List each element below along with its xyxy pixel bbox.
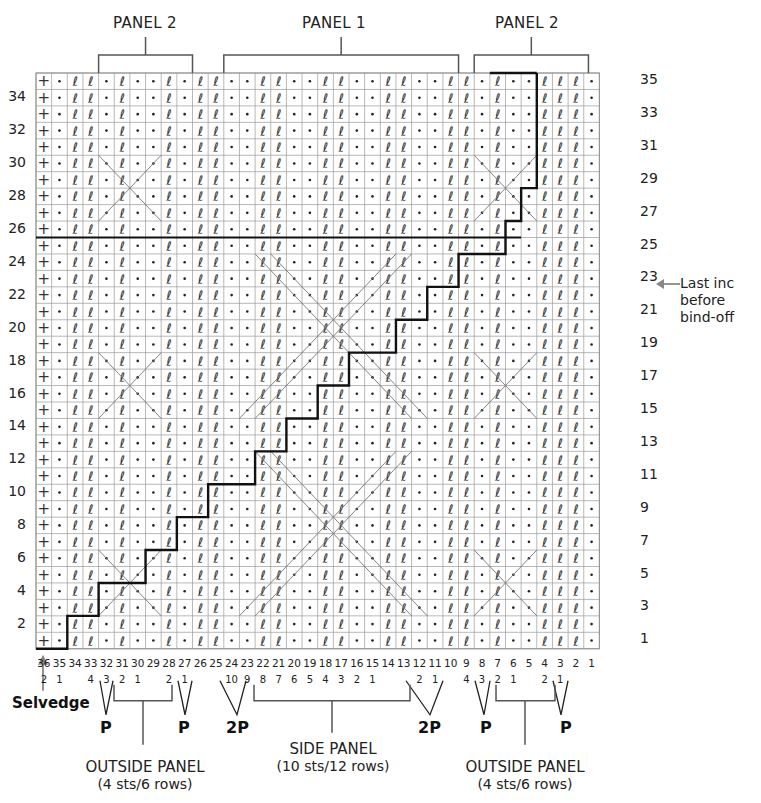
svg-text:ℓ: ℓ xyxy=(259,189,265,204)
svg-text:ℓ: ℓ xyxy=(557,107,563,122)
svg-text:ℓ: ℓ xyxy=(400,634,406,649)
row-number-right: 27 xyxy=(640,203,658,219)
svg-text:ℓ: ℓ xyxy=(463,337,469,352)
svg-text:ℓ: ℓ xyxy=(118,222,124,237)
svg-text:ℓ: ℓ xyxy=(322,453,328,468)
svg-text:ℓ: ℓ xyxy=(71,535,77,550)
svg-text:ℓ: ℓ xyxy=(87,255,93,270)
sub-column-number: 2 xyxy=(349,674,365,685)
svg-text:ℓ: ℓ xyxy=(259,305,265,320)
svg-text:ℓ: ℓ xyxy=(384,551,390,566)
svg-text:+: + xyxy=(38,385,51,403)
svg-text:ℓ: ℓ xyxy=(572,436,578,451)
svg-text:ℓ: ℓ xyxy=(541,518,547,533)
svg-text:ℓ: ℓ xyxy=(494,518,500,533)
svg-text:ℓ: ℓ xyxy=(275,222,281,237)
svg-text:ℓ: ℓ xyxy=(165,518,171,533)
svg-text:ℓ: ℓ xyxy=(275,189,281,204)
svg-text:ℓ: ℓ xyxy=(494,321,500,336)
svg-text:ℓ: ℓ xyxy=(463,124,469,139)
column-number: 22 xyxy=(255,657,271,669)
svg-text:ℓ: ℓ xyxy=(384,617,390,632)
svg-text:ℓ: ℓ xyxy=(463,634,469,649)
svg-text:ℓ: ℓ xyxy=(322,255,328,270)
svg-text:ℓ: ℓ xyxy=(572,321,578,336)
svg-text:ℓ: ℓ xyxy=(87,206,93,221)
svg-text:ℓ: ℓ xyxy=(337,370,343,385)
svg-text:ℓ: ℓ xyxy=(71,156,77,171)
sub-column-number: 5 xyxy=(302,674,318,685)
svg-text:ℓ: ℓ xyxy=(541,535,547,550)
svg-text:+: + xyxy=(38,401,51,419)
svg-text:ℓ: ℓ xyxy=(71,206,77,221)
svg-text:+: + xyxy=(38,237,51,255)
svg-text:ℓ: ℓ xyxy=(71,469,77,484)
row-number-left: 2 xyxy=(2,615,26,631)
svg-text:ℓ: ℓ xyxy=(400,387,406,402)
svg-text:ℓ: ℓ xyxy=(212,107,218,122)
svg-text:ℓ: ℓ xyxy=(212,601,218,616)
svg-text:ℓ: ℓ xyxy=(494,453,500,468)
svg-text:ℓ: ℓ xyxy=(494,107,500,122)
sub-column-number: 1 xyxy=(427,674,443,685)
svg-text:ℓ: ℓ xyxy=(322,140,328,155)
svg-text:ℓ: ℓ xyxy=(118,91,124,106)
svg-text:ℓ: ℓ xyxy=(322,617,328,632)
svg-text:ℓ: ℓ xyxy=(259,453,265,468)
svg-text:ℓ: ℓ xyxy=(197,189,203,204)
row-number-left: 32 xyxy=(2,121,26,137)
svg-text:ℓ: ℓ xyxy=(384,74,390,89)
svg-text:ℓ: ℓ xyxy=(87,222,93,237)
svg-text:ℓ: ℓ xyxy=(337,453,343,468)
sub-column-number: 2 xyxy=(537,674,553,685)
svg-text:ℓ: ℓ xyxy=(541,337,547,352)
svg-text:ℓ: ℓ xyxy=(400,370,406,385)
row-number-right: 29 xyxy=(640,170,658,186)
column-number: 29 xyxy=(145,657,161,669)
svg-text:+: + xyxy=(38,451,51,469)
svg-text:ℓ: ℓ xyxy=(541,436,547,451)
svg-text:ℓ: ℓ xyxy=(463,255,469,270)
svg-text:+: + xyxy=(38,483,51,501)
svg-text:ℓ: ℓ xyxy=(572,518,578,533)
svg-text:ℓ: ℓ xyxy=(447,91,453,106)
svg-text:ℓ: ℓ xyxy=(197,387,203,402)
svg-text:ℓ: ℓ xyxy=(118,354,124,369)
svg-text:ℓ: ℓ xyxy=(447,107,453,122)
svg-text:ℓ: ℓ xyxy=(557,74,563,89)
svg-text:ℓ: ℓ xyxy=(197,502,203,517)
svg-text:ℓ: ℓ xyxy=(400,206,406,221)
svg-text:ℓ: ℓ xyxy=(87,420,93,435)
svg-text:ℓ: ℓ xyxy=(197,617,203,632)
svg-text:ℓ: ℓ xyxy=(197,321,203,336)
svg-text:ℓ: ℓ xyxy=(572,420,578,435)
svg-text:ℓ: ℓ xyxy=(212,222,218,237)
svg-text:ℓ: ℓ xyxy=(337,140,343,155)
svg-text:ℓ: ℓ xyxy=(87,469,93,484)
svg-text:+: + xyxy=(38,582,51,600)
sub-column-number: 2 xyxy=(114,674,130,685)
svg-text:ℓ: ℓ xyxy=(541,222,547,237)
svg-text:ℓ: ℓ xyxy=(572,403,578,418)
svg-text:ℓ: ℓ xyxy=(197,551,203,566)
svg-text:ℓ: ℓ xyxy=(557,601,563,616)
sub-column-number: 7 xyxy=(271,674,287,685)
svg-text:ℓ: ℓ xyxy=(557,321,563,336)
svg-text:ℓ: ℓ xyxy=(384,601,390,616)
svg-text:ℓ: ℓ xyxy=(275,469,281,484)
svg-text:ℓ: ℓ xyxy=(572,337,578,352)
outside-panel-left-label: OUTSIDE PANEL (4 sts/6 rows) xyxy=(60,758,230,792)
svg-text:ℓ: ℓ xyxy=(400,518,406,533)
sub-column-number: 4 xyxy=(318,674,334,685)
svg-text:ℓ: ℓ xyxy=(165,288,171,303)
svg-text:ℓ: ℓ xyxy=(71,189,77,204)
svg-text:ℓ: ℓ xyxy=(463,420,469,435)
svg-text:ℓ: ℓ xyxy=(400,485,406,500)
svg-text:ℓ: ℓ xyxy=(197,469,203,484)
svg-text:ℓ: ℓ xyxy=(337,420,343,435)
column-number: 6 xyxy=(505,657,521,669)
svg-text:ℓ: ℓ xyxy=(463,551,469,566)
svg-text:ℓ: ℓ xyxy=(447,255,453,270)
svg-text:ℓ: ℓ xyxy=(118,436,124,451)
svg-text:ℓ: ℓ xyxy=(197,370,203,385)
